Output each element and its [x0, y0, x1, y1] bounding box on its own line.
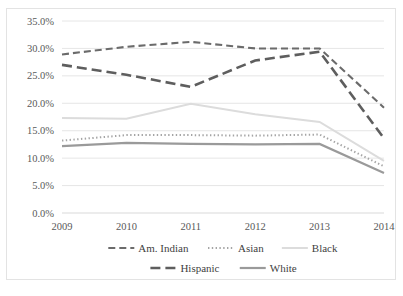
x-tick-label: 2012	[245, 221, 266, 232]
y-tick-label: 0.0%	[32, 208, 54, 219]
x-tick-label: 2013	[309, 221, 330, 232]
data-series-group	[62, 42, 384, 173]
legend-label-asian[interactable]: Asian	[238, 242, 264, 254]
y-tick-label: 5.0%	[32, 180, 54, 191]
x-tick-label: 2010	[116, 221, 137, 232]
chart-container: 0.0%5.0%10.0%15.0%20.0%25.0%30.0%35.0% 2…	[0, 0, 403, 296]
y-tick-label: 25.0%	[27, 70, 54, 81]
x-tick-label: 2009	[52, 221, 73, 232]
gridlines	[62, 21, 384, 213]
chart-plot-area: 0.0%5.0%10.0%15.0%20.0%25.0%30.0%35.0% 2…	[0, 0, 403, 296]
legend-label-black[interactable]: Black	[312, 242, 338, 254]
y-tick-label: 20.0%	[27, 98, 54, 109]
legend-label-white[interactable]: White	[270, 262, 297, 274]
series-line-hispanic	[62, 52, 384, 139]
y-tick-label: 35.0%	[27, 16, 54, 27]
line-chart-svg: 0.0%5.0%10.0%15.0%20.0%25.0%30.0%35.0% 2…	[0, 0, 403, 296]
y-tick-label: 10.0%	[27, 153, 54, 164]
y-tick-label: 30.0%	[27, 43, 54, 54]
y-tick-label: 15.0%	[27, 125, 54, 136]
x-tick-label: 2011	[180, 221, 201, 232]
y-axis-tick-labels: 0.0%5.0%10.0%15.0%20.0%25.0%30.0%35.0%	[27, 16, 54, 219]
legend-label-hispanic[interactable]: Hispanic	[180, 262, 219, 274]
x-tick-label: 2014	[374, 221, 396, 232]
legend-label-am-indian[interactable]: Am. Indian	[138, 242, 189, 254]
x-axis-tick-labels: 200920102011201220132014	[52, 221, 396, 232]
chart-legend: Am. IndianAsianBlackHispanicWhite	[108, 242, 338, 274]
